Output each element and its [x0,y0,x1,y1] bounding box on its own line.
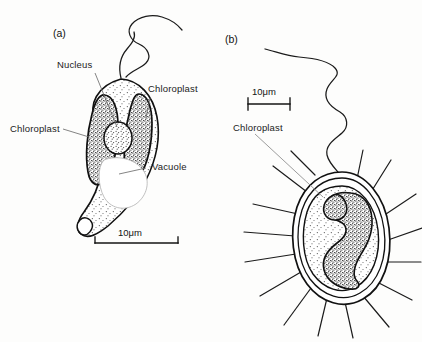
panel-a-tail-tip [77,218,92,235]
panel-a-flagella [120,16,182,78]
panel-b-scale-label: 10μm [252,86,276,97]
panel-a-label-vacuole: Vacuole [152,161,187,172]
panel-a-label: (a) [53,27,66,39]
panel-b-flagellum [265,49,347,178]
panel-a-label-nucleus: Nucleus [57,59,92,70]
figure-canvas: (a) Nucleus Chloroplast Chloroplast Vacu… [0,0,422,342]
panel-a-label-chloroplast-left: Chloroplast [10,123,60,134]
panel-b-label: (b) [225,33,238,45]
panel-a-label-chloroplast-right: Chloroplast [148,83,198,94]
panel-b-illustration [211,0,422,342]
panel-b-leader-line [255,134,323,197]
panel-b-label-chloroplast: Chloroplast [233,122,283,133]
panel-a-scale-label: 10μm [118,227,142,238]
panel-b-scale-bar [248,98,290,110]
panel-a-nucleus [104,122,132,154]
